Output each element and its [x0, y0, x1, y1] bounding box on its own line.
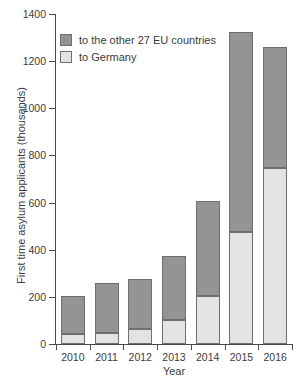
bar-segment-germany [95, 333, 119, 344]
y-axis-tick [49, 203, 55, 204]
bar-group [162, 14, 186, 344]
legend-item: to Germany [60, 50, 216, 63]
y-axis-tick [49, 61, 55, 62]
x-axis-tick [225, 345, 226, 350]
y-axis-tick [49, 250, 55, 251]
y-axis-tick [49, 155, 55, 156]
y-axis-title: First time asylum applicants (thousands) [16, 61, 27, 311]
bar-group [128, 14, 152, 344]
y-axis-tick-label: 400 [28, 245, 46, 256]
bar-segment-germany [263, 168, 287, 344]
x-axis-tick [292, 345, 293, 350]
x-axis-tick [90, 345, 91, 350]
bar-segment-other-eu [196, 201, 220, 296]
y-axis-tick-label: 0 [40, 339, 46, 350]
x-axis-tick [258, 345, 259, 350]
x-axis-tick [157, 345, 158, 350]
bar-segment-germany [162, 320, 186, 344]
bar-segment-other-eu [128, 279, 152, 329]
legend-swatch-icon [60, 51, 72, 63]
x-axis-tick [56, 345, 57, 350]
y-axis-tick [49, 14, 55, 15]
legend-swatch-icon [60, 34, 72, 46]
bar-segment-other-eu [95, 283, 119, 333]
bar-segment-other-eu [61, 296, 85, 335]
bar-segment-germany [61, 334, 85, 344]
bar-segment-other-eu [229, 32, 253, 231]
x-axis-tick-label: 2016 [255, 352, 295, 363]
bar-segment-germany [128, 329, 152, 344]
bar-segment-germany [229, 232, 253, 344]
bar-group [196, 14, 220, 344]
x-axis-tick [191, 345, 192, 350]
asylum-applicants-stacked-bar-chart: 0200400600800100012001400 20102011201220… [0, 0, 300, 382]
bar-group [61, 14, 85, 344]
bar-group [229, 14, 253, 344]
y-axis-tick [49, 297, 55, 298]
x-axis-title: Year [55, 366, 293, 377]
bar-segment-germany [196, 296, 220, 344]
plot-area [56, 14, 292, 344]
legend-item: to the other 27 EU countries [60, 33, 216, 46]
legend-item-label: to the other 27 EU countries [79, 34, 216, 46]
y-axis-tick-label: 600 [28, 198, 46, 209]
y-axis-tick-label: 1400 [23, 9, 46, 20]
y-axis-tick-label: 200 [28, 292, 46, 303]
x-axis-tick [123, 345, 124, 350]
y-axis-tick [49, 344, 55, 345]
legend-item-label: to Germany [79, 51, 136, 63]
y-axis-tick [49, 108, 55, 109]
y-axis-tick-label: 800 [28, 150, 46, 161]
bar-segment-other-eu [263, 47, 287, 168]
bar-segment-other-eu [162, 256, 186, 321]
chart-legend: to the other 27 EU countriesto Germany [60, 33, 216, 63]
bar-group [95, 14, 119, 344]
bar-group [263, 14, 287, 344]
